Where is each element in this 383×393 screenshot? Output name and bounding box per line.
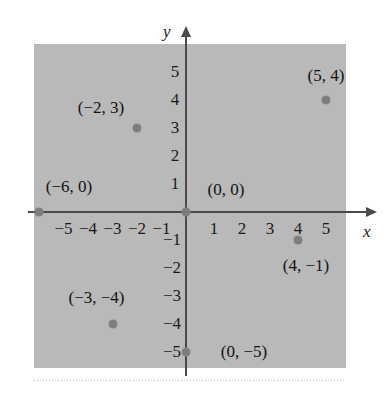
y-tick-label: 1 [171,174,180,194]
x-tick-label: −5 [54,219,72,239]
y-tick-label: −4 [163,314,181,334]
gridline-vertical [270,44,271,368]
y-tick-label: 5 [171,62,180,82]
gridline-horizontal [34,128,346,129]
x-tick-label: −3 [103,219,121,239]
gridline-vertical [242,44,243,368]
data-point-label: (0, 0) [208,180,245,200]
gridline-horizontal [34,352,346,353]
gridline-horizontal [34,156,346,157]
x-tick-label: −2 [128,219,146,239]
x-axis-label: x [363,222,371,242]
gridline-vertical [214,44,215,368]
x-tick-label: 2 [238,219,247,239]
x-axis-arrow-icon [366,207,377,217]
data-point [294,236,302,244]
y-axis-label: y [163,22,171,42]
data-point [322,96,330,104]
x-tick-label: 3 [266,219,275,239]
x-axis [28,211,368,213]
data-point [133,124,141,132]
x-tick-label: −4 [79,219,97,239]
data-point [182,348,190,356]
y-axis [185,36,187,376]
y-tick-label: 4 [171,90,180,110]
gridline-vertical [137,44,138,368]
gridline-vertical [326,44,327,368]
y-tick-label: 3 [171,118,180,138]
x-tick-label: 1 [210,219,219,239]
y-tick-label: −2 [163,258,181,278]
gridline-horizontal [34,72,346,73]
y-tick-label: 2 [171,146,180,166]
data-point-label: (4, −1) [283,256,329,276]
y-tick-label: −1 [163,230,181,250]
data-point [35,208,43,216]
gridline-vertical [88,44,89,368]
gridline-horizontal [34,380,346,381]
data-point-label: (−3, −4) [69,288,125,308]
y-tick-label: −5 [163,342,181,362]
y-tick-label: −3 [163,286,181,306]
data-point-label: (0, −5) [221,342,267,362]
x-tick-label: 5 [322,219,331,239]
data-point-label: (−6, 0) [46,177,92,197]
data-point [182,208,190,216]
gridline-vertical [298,44,299,368]
gridline-horizontal [34,324,346,325]
coordinate-plane-figure: x y −5−4−3−2−112345 54321−1−2−3−4−5 (5, … [0,0,383,393]
plot-grid [34,44,346,368]
data-point-label: (5, 4) [308,66,345,86]
data-point [109,320,117,328]
gridline-vertical [39,44,40,368]
data-point-label: (−2, 3) [78,98,124,118]
y-axis-arrow-icon [181,26,191,37]
gridline-vertical [64,44,65,368]
